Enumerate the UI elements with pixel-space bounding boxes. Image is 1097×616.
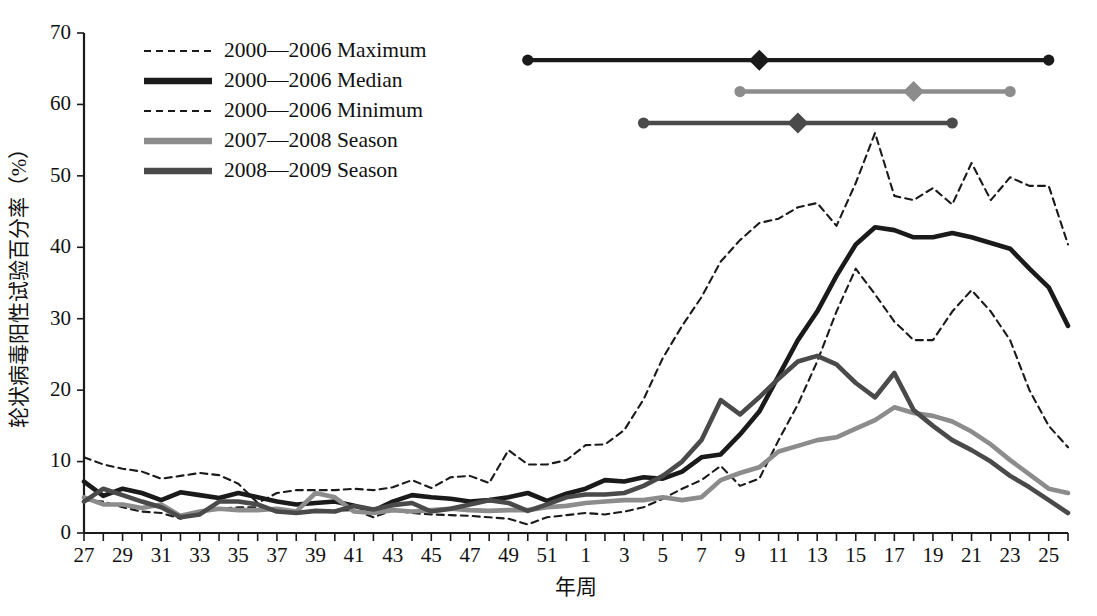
- interval-bars: [522, 50, 1054, 134]
- y-axis-title-text: 轮状病毒阳性试验百分率（%）: [7, 138, 31, 429]
- series-line-0: [84, 133, 1068, 503]
- x-tick-label: 19: [922, 543, 943, 567]
- x-tick-label: 41: [344, 543, 365, 567]
- series-line-1: [84, 227, 1068, 511]
- x-tick-label: 5: [658, 543, 669, 567]
- x-tick-label: 29: [112, 543, 133, 567]
- y-tick-label: 60: [50, 91, 71, 115]
- y-tick-label: 50: [50, 163, 71, 187]
- legend: 2000—2006 Maximum2000—2006 Median2000—20…: [144, 38, 427, 182]
- interval-bar-2: [638, 113, 958, 134]
- x-axis-title-text: 年周: [555, 575, 597, 599]
- y-axis-title: 轮状病毒阳性试验百分率（%）: [7, 138, 31, 429]
- rotavirus-positivity-line-chart: 轮状病毒阳性试验百分率（%） 010203040506070 272931333…: [0, 0, 1097, 616]
- series-lines: [84, 133, 1068, 524]
- interval-bar-1: [734, 81, 1015, 102]
- x-tick-label: 35: [228, 543, 249, 567]
- x-tick-label: 11: [768, 543, 788, 567]
- x-tick-label: 49: [498, 543, 519, 567]
- legend-item-1[interactable]: 2000—2006 Median: [144, 68, 403, 92]
- x-axis-ticks: 2729313335373941434547495113579111315171…: [74, 533, 1069, 567]
- x-tick-label: 47: [459, 543, 480, 567]
- y-tick-label: 30: [50, 306, 71, 330]
- chart-figure: 轮状病毒阳性试验百分率（%） 010203040506070 272931333…: [0, 0, 1097, 616]
- interval-median-diamond: [903, 81, 924, 102]
- y-axis-ticks: 010203040506070: [50, 20, 84, 544]
- x-tick-label: 25: [1038, 543, 1059, 567]
- legend-item-2[interactable]: 2000—2006 Minimum: [144, 98, 423, 122]
- x-tick-label: 21: [961, 543, 982, 567]
- x-tick-label: 23: [1000, 543, 1021, 567]
- interval-start-marker: [734, 86, 745, 97]
- x-tick-label: 13: [807, 543, 828, 567]
- interval-end-marker: [1005, 86, 1016, 97]
- interval-start-marker: [638, 117, 649, 128]
- x-tick-label: 37: [266, 543, 287, 567]
- series-line-2: [84, 269, 1068, 525]
- legend-item-3[interactable]: 2007—2008 Season: [144, 128, 398, 152]
- x-tick-label: 39: [305, 543, 326, 567]
- x-tick-label: 17: [884, 543, 905, 567]
- x-tick-label: 33: [189, 543, 210, 567]
- x-tick-label: 7: [696, 543, 707, 567]
- interval-end-marker: [1043, 55, 1054, 66]
- interval-median-diamond: [749, 50, 770, 71]
- legend-label: 2000—2006 Minimum: [224, 98, 423, 122]
- y-tick-label: 40: [50, 234, 71, 258]
- x-tick-label: 51: [537, 543, 558, 567]
- interval-bar-0: [522, 50, 1054, 71]
- x-tick-label: 43: [382, 543, 403, 567]
- legend-item-0[interactable]: 2000—2006 Maximum: [144, 38, 427, 62]
- y-tick-label: 10: [50, 448, 71, 472]
- x-tick-label: 1: [580, 543, 591, 567]
- interval-median-diamond: [787, 113, 808, 134]
- y-tick-label: 70: [50, 20, 71, 44]
- legend-label: 2000—2006 Maximum: [224, 38, 427, 62]
- y-tick-label: 0: [61, 520, 72, 544]
- x-tick-label: 15: [845, 543, 866, 567]
- x-tick-label: 31: [151, 543, 172, 567]
- x-tick-label: 9: [735, 543, 746, 567]
- legend-label: 2000—2006 Median: [224, 68, 403, 92]
- legend-label: 2007—2008 Season: [224, 128, 398, 152]
- interval-end-marker: [947, 117, 958, 128]
- y-tick-label: 20: [50, 377, 71, 401]
- x-tick-label: 27: [74, 543, 95, 567]
- interval-start-marker: [522, 55, 533, 66]
- x-tick-label: 45: [421, 543, 442, 567]
- legend-item-4[interactable]: 2008—2009 Season: [144, 158, 398, 182]
- x-tick-label: 3: [619, 543, 630, 567]
- legend-label: 2008—2009 Season: [224, 158, 398, 182]
